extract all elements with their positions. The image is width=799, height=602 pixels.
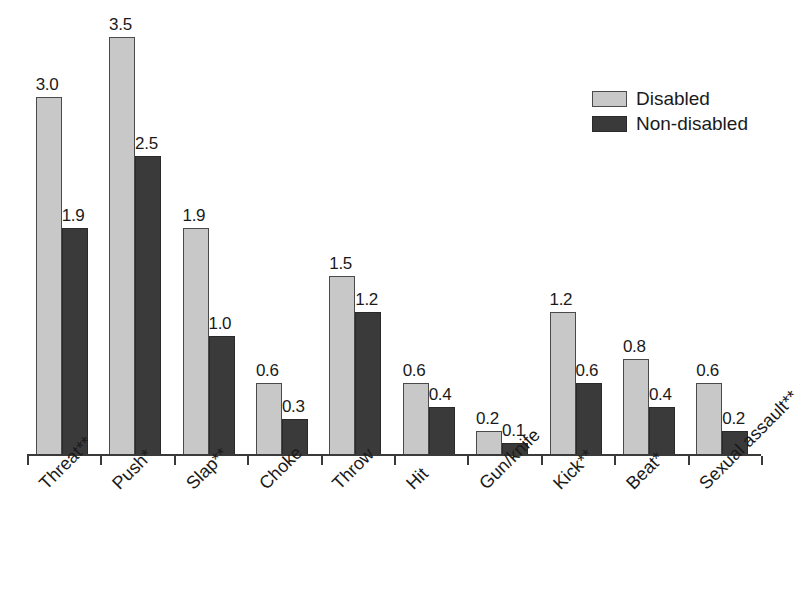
bar-non-disabled — [209, 336, 235, 456]
x-axis-tick — [467, 456, 469, 465]
bar-disabled — [696, 383, 722, 455]
bar-value-label: 0.6 — [256, 362, 279, 379]
legend-swatch-disabled-icon — [592, 91, 627, 107]
x-axis-tick — [688, 456, 690, 465]
x-axis-tick — [614, 456, 616, 465]
bar-disabled — [623, 359, 649, 455]
bar-value-label: 1.2 — [550, 291, 573, 308]
legend-item-disabled: Disabled — [592, 86, 772, 111]
bar-value-label: 1.0 — [209, 315, 232, 332]
x-axis-tick — [27, 456, 29, 465]
legend-label-disabled: Disabled — [636, 89, 710, 108]
legend-item-non-disabled: Non-disabled — [592, 111, 772, 136]
bar-non-disabled — [355, 312, 381, 455]
bar-value-label: 0.4 — [429, 386, 452, 403]
bar-value-label: 3.5 — [109, 16, 132, 33]
bar-value-label: 2.5 — [135, 135, 158, 152]
bar-value-label: 1.2 — [355, 291, 378, 308]
bar-value-label: 1.5 — [329, 255, 352, 272]
bar-value-label: 0.6 — [576, 362, 599, 379]
bar-disabled — [109, 37, 135, 455]
bar-value-label: 0.6 — [403, 362, 426, 379]
bar-disabled — [183, 228, 209, 455]
x-axis-category-labels: Threat**Push*Slap**ChokeThrowHitGun/knif… — [0, 466, 775, 602]
legend-swatch-non-disabled-icon — [592, 116, 627, 132]
bar-value-label: 0.2 — [722, 410, 745, 427]
x-axis-tick — [394, 456, 396, 465]
bar-non-disabled — [135, 156, 161, 455]
plot-area: 3.01.93.52.51.91.00.60.31.51.20.60.40.20… — [0, 0, 775, 470]
bar-value-label: 1.9 — [62, 207, 85, 224]
x-axis-tick — [100, 456, 102, 465]
bar-disabled — [403, 383, 429, 455]
legend-label-non-disabled: Non-disabled — [636, 114, 748, 133]
x-axis-tick — [321, 456, 323, 465]
chart-legend: Disabled Non-disabled — [592, 86, 772, 136]
bar-value-label: 3.0 — [36, 76, 59, 93]
bar-disabled — [256, 383, 282, 455]
category-label: Hit — [403, 464, 432, 493]
bar-non-disabled — [62, 228, 88, 455]
bar-value-label: 0.2 — [476, 410, 499, 427]
bar-disabled — [550, 312, 576, 455]
bar-value-label: 0.8 — [623, 338, 646, 355]
bar-non-disabled — [429, 407, 455, 455]
bar-value-label: 0.4 — [649, 386, 672, 403]
x-axis-tick — [247, 456, 249, 465]
bar-disabled — [329, 276, 355, 455]
bar-value-label: 0.3 — [282, 398, 305, 415]
x-axis-tick — [541, 456, 543, 465]
bar-disabled — [36, 97, 62, 456]
x-axis-tick — [174, 456, 176, 465]
bar-non-disabled — [576, 383, 602, 455]
x-axis-tick — [761, 456, 763, 465]
bar-value-label: 0.6 — [696, 362, 719, 379]
bar-disabled — [476, 431, 502, 455]
bar-value-label: 1.9 — [183, 207, 206, 224]
bars-layer: 3.01.93.52.51.91.00.60.31.51.20.60.40.20… — [0, 0, 775, 455]
